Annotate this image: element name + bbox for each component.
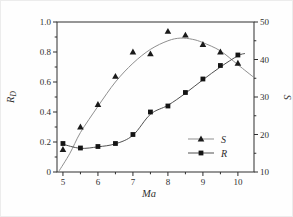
- triangle-marker: [112, 73, 119, 79]
- axis-tick-labels: 567891000.20.40.60.81.01020304050: [40, 17, 270, 187]
- legend: SR: [188, 134, 227, 159]
- y-left-tick-label: 0.8: [40, 47, 52, 57]
- square-marker: [218, 63, 223, 68]
- y-right-tick-label: 40: [260, 55, 270, 65]
- x-axis-label: Ma: [141, 188, 156, 199]
- y-left-tick-label: 0.4: [40, 107, 52, 117]
- series-R-points: [61, 53, 241, 151]
- square-marker: [183, 90, 188, 95]
- y-right-tick-label: 20: [260, 130, 270, 140]
- triangle-marker: [60, 146, 67, 152]
- square-marker: [78, 146, 83, 151]
- x-tick-label: 9: [201, 177, 206, 187]
- x-tick-label: 10: [233, 177, 243, 187]
- legend-item-S: S: [188, 134, 226, 145]
- y-left-tick-label: 0.6: [40, 77, 52, 87]
- square-marker: [201, 77, 206, 82]
- y-axis-left-label: RD: [5, 91, 18, 104]
- x-tick-label: 5: [61, 177, 66, 187]
- square-marker: [148, 110, 153, 115]
- triangle-marker: [77, 124, 84, 130]
- x-tick-label: 8: [166, 177, 171, 187]
- y-left-tick-label: 1.0: [40, 17, 52, 27]
- square-marker: [166, 104, 171, 109]
- y-right-tick-label: 30: [260, 92, 270, 102]
- y-axis-left-label-subscript: D: [9, 91, 18, 98]
- y-left-tick-label: 0.2: [40, 137, 51, 147]
- chart-svg: 567891000.20.40.60.81.01020304050 SR RD …: [1, 1, 293, 217]
- y-axis-right-label: S: [282, 94, 293, 100]
- y-right-tick-label: 10: [260, 167, 270, 177]
- y-right-tick-label: 50: [260, 17, 270, 27]
- legend-label: S: [221, 134, 226, 145]
- square-marker: [199, 151, 204, 156]
- square-marker: [113, 141, 118, 146]
- series-R-curve: [63, 54, 245, 149]
- series-S-points: [60, 28, 242, 152]
- x-tick-label: 6: [96, 177, 101, 187]
- square-marker: [236, 53, 241, 58]
- square-marker: [61, 141, 66, 146]
- legend-item-R: R: [188, 148, 227, 159]
- triangle-marker: [130, 49, 137, 55]
- square-marker: [96, 144, 101, 149]
- figure: 567891000.20.40.60.81.01020304050 SR RD …: [0, 0, 293, 217]
- y-left-tick-label: 0: [47, 167, 52, 177]
- triangle-marker: [95, 101, 102, 107]
- axis-ticks: [53, 22, 258, 176]
- square-marker: [131, 132, 136, 137]
- data-points: [60, 28, 242, 152]
- triangle-marker: [182, 32, 189, 38]
- x-tick-label: 7: [131, 177, 136, 187]
- triangle-marker: [165, 28, 172, 34]
- legend-label: R: [220, 148, 227, 159]
